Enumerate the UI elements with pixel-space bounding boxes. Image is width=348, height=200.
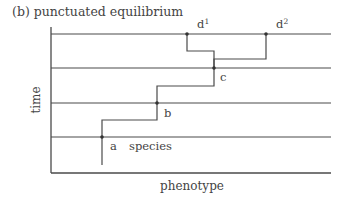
node-c — [212, 66, 216, 70]
lineage-c-to-d2 — [214, 34, 266, 68]
node-d1 — [185, 32, 189, 36]
punctuated-equilibrium-diagram: (b) punctuated equilibrium a species b c… — [0, 0, 348, 200]
label-d2: d2 — [276, 17, 288, 31]
x-axis-label: phenotype — [160, 179, 224, 193]
lineage-c-to-d1 — [187, 34, 214, 68]
y-axis-label: time — [29, 86, 43, 113]
label-a: a — [110, 139, 117, 153]
label-c: c — [220, 70, 226, 84]
figure-title: (b) punctuated equilibrium — [12, 4, 183, 19]
lineage-b-to-c — [157, 68, 214, 103]
lineage-a-to-b — [102, 103, 157, 137]
node-b — [155, 101, 159, 105]
node-d2 — [264, 32, 268, 36]
label-d1: d1 — [197, 17, 209, 31]
node-a — [100, 135, 104, 139]
label-species: species — [129, 139, 172, 153]
diagram-canvas: (b) punctuated equilibrium a species b c… — [0, 0, 348, 200]
label-b: b — [164, 106, 171, 120]
